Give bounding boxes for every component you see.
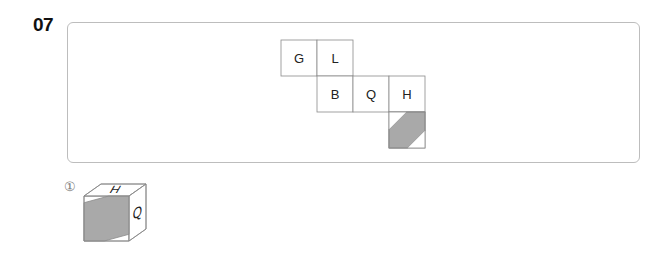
net-cell: B — [317, 76, 353, 112]
net-cell: L — [317, 40, 353, 76]
net-cell-label: Q — [366, 87, 376, 102]
net-cell-label: L — [331, 51, 338, 66]
shaded-band — [84, 196, 129, 241]
net-cell: Q — [353, 76, 389, 112]
net-cell-label: B — [331, 87, 340, 102]
net-cell: G — [281, 40, 317, 76]
net-cell-label: G — [294, 51, 304, 66]
cube-icon: HQ — [62, 176, 172, 254]
net-cell — [389, 112, 425, 148]
net-cell: H — [389, 76, 425, 112]
net-cell-label: H — [402, 87, 411, 102]
